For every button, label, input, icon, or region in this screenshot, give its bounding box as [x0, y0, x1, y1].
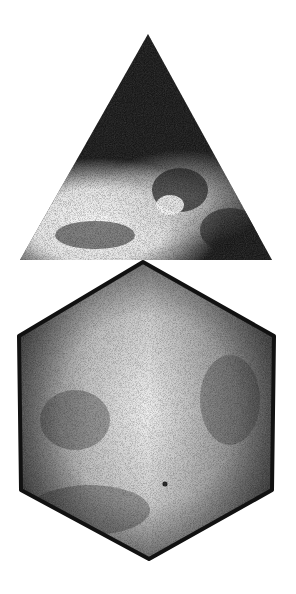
figure-canvas [0, 0, 296, 594]
hexagon-shape [0, 255, 296, 565]
triangle-shape [0, 0, 296, 300]
